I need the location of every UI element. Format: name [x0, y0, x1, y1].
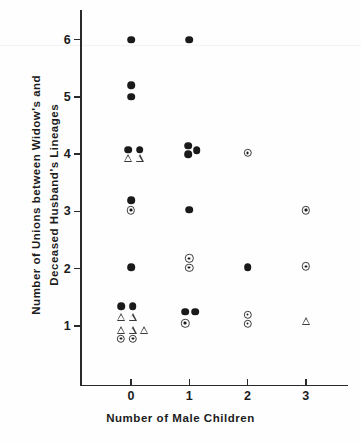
- scatter-plot-figure: 123456 0123 Number of Unions between Wid…: [0, 0, 361, 442]
- data-point-filled-circle: [193, 146, 201, 154]
- data-point-open-triangle: [117, 313, 125, 321]
- y-tick-mark-3: [74, 211, 81, 213]
- y-tick-mark-5: [74, 96, 81, 98]
- data-point-filled-circle: [117, 302, 125, 310]
- data-point-open-triangle: [140, 326, 148, 334]
- data-point-filled-circle: [186, 36, 194, 44]
- data-point-dotted-circle: [185, 263, 193, 271]
- data-point-dotted-circle: [185, 254, 193, 262]
- data-point-filled-circle: [127, 82, 135, 90]
- data-point-filled-circle: [127, 36, 135, 44]
- scan-artifact-line: [0, 45, 361, 46]
- data-point-open-triangle: [136, 154, 144, 162]
- data-point-filled-circle: [127, 263, 135, 271]
- data-point-open-triangle: [129, 326, 137, 334]
- data-point-dotted-circle: [127, 206, 135, 214]
- x-tick-label-0: 0: [121, 389, 141, 403]
- y-tick-label-5: 5: [57, 90, 71, 104]
- y-tick-mark-2: [74, 268, 81, 270]
- x-tick-mark-3: [305, 379, 307, 386]
- data-point-filled-circle: [186, 206, 194, 214]
- data-point-filled-circle: [129, 302, 137, 310]
- data-point-dotted-circle: [243, 310, 251, 318]
- y-tick-mark-4: [74, 153, 81, 155]
- y-axis-line: [80, 10, 82, 386]
- x-tick-label-2: 2: [238, 389, 258, 403]
- x-axis-title: Number of Male Children: [0, 412, 361, 424]
- data-point-dotted-circle: [302, 262, 310, 270]
- x-tick-label-1: 1: [179, 389, 199, 403]
- data-point-dotted-circle: [243, 149, 251, 157]
- y-tick-label-6: 6: [57, 33, 71, 47]
- x-tick-mark-1: [189, 379, 191, 386]
- data-point-filled-circle: [184, 142, 192, 150]
- data-point-dotted-circle: [302, 206, 310, 214]
- data-point-dotted-circle: [129, 334, 137, 342]
- y-tick-label-2: 2: [57, 262, 71, 276]
- x-tick-label-3: 3: [296, 389, 316, 403]
- data-point-open-triangle: [124, 154, 132, 162]
- data-point-dotted-circle: [181, 319, 189, 327]
- data-point-open-triangle: [117, 326, 125, 334]
- y-tick-mark-1: [74, 325, 81, 327]
- y-tick-label-4: 4: [57, 147, 71, 161]
- data-point-filled-circle: [184, 150, 192, 158]
- y-tick-label-1: 1: [57, 319, 71, 333]
- data-point-dotted-circle: [117, 334, 125, 342]
- data-point-filled-circle: [127, 196, 135, 204]
- data-point-filled-circle: [124, 146, 132, 154]
- y-axis-title-line-1: Number of Unions between Widow's and: [28, 45, 46, 345]
- data-point-filled-circle: [181, 308, 189, 316]
- data-point-filled-circle: [191, 308, 199, 316]
- y-tick-mark-6: [74, 39, 81, 41]
- x-tick-mark-2: [247, 379, 249, 386]
- data-point-filled-circle: [244, 263, 252, 271]
- data-point-filled-circle: [127, 93, 135, 101]
- y-tick-label-3: 3: [57, 204, 71, 218]
- data-point-dotted-circle: [243, 320, 251, 328]
- x-axis-line: [80, 385, 348, 387]
- data-point-open-triangle: [302, 317, 310, 325]
- data-point-filled-circle: [136, 146, 144, 154]
- data-point-open-triangle: [129, 313, 137, 321]
- x-tick-mark-0: [130, 379, 132, 386]
